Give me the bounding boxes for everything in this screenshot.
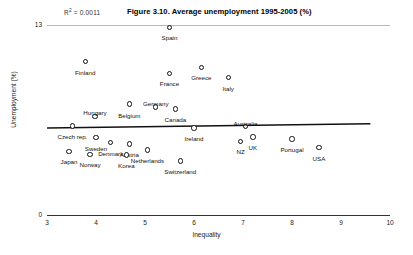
data-point-label: Portugal: [280, 147, 303, 153]
data-point-label: Spain: [162, 35, 178, 41]
data-point-label: Netherlands: [131, 158, 164, 164]
x-axis-tick-6: 6: [187, 219, 201, 226]
data-point-label: Belgium: [118, 113, 140, 119]
x-axis-tick-3: 3: [40, 219, 54, 226]
x-axis-line: [47, 215, 390, 216]
data-point[interactable]: [289, 136, 294, 141]
data-point[interactable]: [93, 135, 98, 140]
data-point[interactable]: [145, 147, 150, 152]
data-point-label: Italy: [223, 86, 234, 92]
x-axis-tick-9: 9: [334, 219, 348, 226]
data-point-label: UK: [248, 145, 257, 151]
plot-area: SpainFinlandFranceGreeceItalyGermanyBelg…: [47, 25, 390, 215]
data-point-label: NZ: [236, 149, 244, 155]
data-point[interactable]: [167, 71, 172, 76]
data-point-label: Ireland: [185, 136, 204, 142]
data-point-label: Australia: [233, 121, 257, 127]
data-point[interactable]: [173, 106, 178, 111]
x-axis-tick-4: 4: [89, 219, 103, 226]
data-point[interactable]: [87, 152, 92, 157]
data-point[interactable]: [70, 123, 75, 128]
chart-title: Figure 3.10. Average unemployment 1995-2…: [127, 7, 312, 16]
data-point-label: Hungary: [83, 110, 106, 116]
data-point-label: USA: [313, 156, 326, 162]
trend-line: [47, 25, 390, 215]
r-squared-text: R2 = 0.0011: [64, 9, 100, 16]
data-point-label: Norway: [80, 162, 101, 168]
data-point-label: Finland: [75, 70, 95, 76]
data-point-label: Greece: [191, 75, 211, 81]
data-point[interactable]: [66, 149, 71, 154]
data-point[interactable]: [178, 158, 183, 163]
data-point-label: Canada: [165, 117, 187, 123]
scatter-chart: R2 = 0.0011 Figure 3.10. Average unemplo…: [0, 0, 413, 255]
data-point-label: Japan: [61, 159, 78, 165]
y-axis-tick-0: 0: [22, 211, 42, 218]
data-point-label: Czech rep.: [58, 134, 88, 140]
x-axis-label: Inequality: [0, 231, 413, 238]
x-axis-tick-5: 5: [138, 219, 152, 226]
data-point[interactable]: [127, 101, 132, 106]
x-axis-tick-7: 7: [236, 219, 250, 226]
data-point[interactable]: [238, 139, 243, 144]
x-axis-tick-8: 8: [285, 219, 299, 226]
data-point[interactable]: [167, 25, 172, 30]
y-axis-tick-13: 13: [22, 21, 42, 28]
data-point[interactable]: [250, 134, 255, 139]
data-point[interactable]: [127, 141, 132, 146]
data-point-label: France: [160, 81, 179, 87]
x-axis-tick-10: 10: [383, 219, 397, 226]
r-squared-annotation: R2 = 0.0011: [64, 8, 100, 16]
y-axis-label: Unemployment (%): [10, 40, 17, 160]
data-point-label: Germany: [143, 101, 168, 107]
data-point-label: Switzerland: [164, 169, 196, 175]
data-point[interactable]: [199, 65, 204, 70]
data-point[interactable]: [191, 125, 196, 130]
data-point[interactable]: [124, 152, 129, 157]
